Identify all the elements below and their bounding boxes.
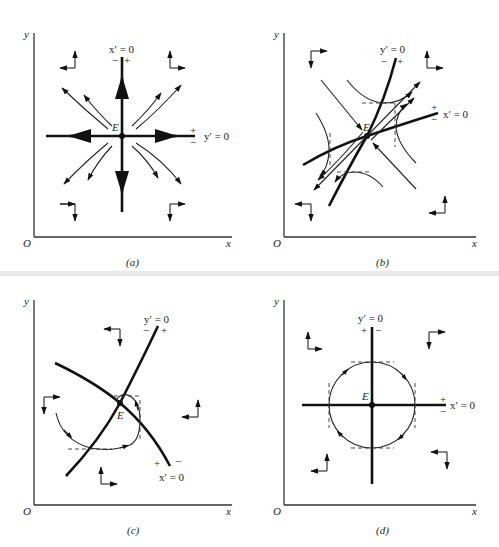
origin-label: O [23,237,31,249]
origin-label: O [23,505,31,517]
x-nullcline-sign-left: − [112,54,118,66]
x-nullcline-sign-left: + [154,457,160,469]
y-axis-label: y [23,295,29,307]
panel-caption: (a) [126,256,139,269]
x-nullcline-label: x′ = 0 [159,471,185,483]
panel-d: O x y (d) E y′ = 0 + − + − x′ = 0 [273,295,477,537]
x-axis-label: x [225,237,231,249]
equilibrium-point [117,400,123,406]
equilibrium-label: E [362,121,370,133]
equilibrium-label: E [361,390,369,402]
equilibrium-point [369,402,375,408]
origin-label: O [273,505,281,517]
x-axis-label: x [471,237,477,249]
y-nullcline-sign-left: − [143,324,149,336]
y-nullcline-label: y′ = 0 [358,312,384,324]
panel-a: O x y (a) E x′ = 0 − + + − y′ = 0 [23,28,232,269]
panel-caption: (d) [376,524,389,537]
y-axis-label: y [273,295,279,307]
x-nullcline [303,113,438,165]
panel-caption: (b) [376,256,389,269]
x-axis-label: x [471,505,477,517]
x-nullcline-sign-top: + [431,101,437,113]
panel-caption: (c) [127,524,140,537]
x-nullcline-sign-right: − [175,455,181,467]
x-nullcline-sign-bottom: − [431,113,437,125]
y-nullcline-label: y′ = 0 [380,43,406,55]
x-nullcline-label: x′ = 0 [443,108,469,120]
y-nullcline-sign-bottom: − [190,136,196,148]
axes [284,33,476,237]
phase-diagram-figure: O x y (a) E x′ = 0 − + + − y′ = 0 [0,0,499,547]
y-axis-label: y [273,28,279,40]
panel-c: O x y (c) E y′ = 0 − + + − x′ = 0 [23,295,232,537]
equilibrium-label: E [111,121,119,133]
axes [34,300,232,505]
x-nullcline-sign-right: + [124,54,130,66]
y-nullcline-label: y′ = 0 [204,130,230,142]
y-nullcline-sign-left: + [361,324,367,336]
y-nullcline-sign-left: − [381,55,387,67]
panel-b: O x y (b) E y′ = 0 − + + − x′ = 0 [273,28,477,269]
equilibrium-point [119,133,125,139]
tangent-dashes [68,396,142,449]
y-axis-label: y [23,28,29,40]
x-nullcline-sign-bottom: − [440,405,446,417]
x-axis-label: x [225,505,231,517]
y-nullcline [66,326,158,476]
equilibrium-label: E [116,409,124,421]
y-nullcline-sign-right: − [375,324,381,336]
x-nullcline-sign-top: + [440,393,446,405]
y-nullcline-sign-top: + [190,124,196,136]
origin-label: O [273,237,281,249]
y-nullcline-sign-right: + [161,324,167,336]
y-nullcline-sign-right: + [397,55,403,67]
spiral-trajectory [56,395,140,450]
x-nullcline-label: x′ = 0 [450,399,476,411]
